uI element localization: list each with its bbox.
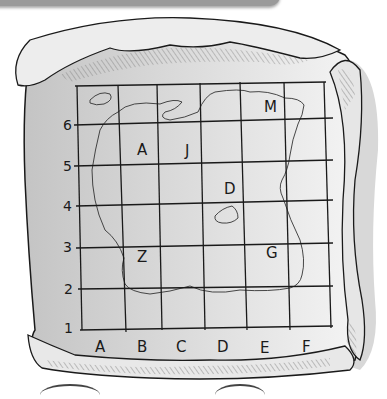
- row-label-1: 1: [64, 320, 73, 336]
- marker-a: A: [137, 141, 148, 159]
- row-label-3: 3: [63, 239, 72, 255]
- col-label-a: A: [95, 338, 106, 356]
- row-label-4: 4: [63, 198, 72, 214]
- row-label-6: 6: [63, 117, 72, 133]
- marker-g: G: [266, 244, 278, 262]
- marker-m: M: [264, 98, 277, 116]
- col-label-f: F: [302, 338, 311, 356]
- col-label-c: C: [176, 338, 186, 356]
- col-label-b: B: [137, 338, 147, 356]
- col-label-d: D: [217, 338, 229, 356]
- next-element-edge: [40, 384, 100, 399]
- row-label-5: 5: [63, 158, 72, 174]
- marker-z: Z: [137, 248, 147, 266]
- col-label-e: E: [260, 339, 269, 357]
- row-label-2: 2: [64, 281, 73, 297]
- next-element-edge: [215, 384, 265, 399]
- marker-j: J: [184, 142, 189, 160]
- marker-d: D: [224, 180, 236, 198]
